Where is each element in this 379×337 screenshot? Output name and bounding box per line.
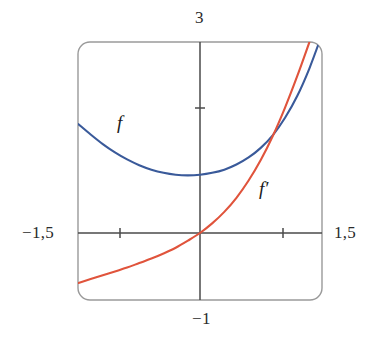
plot-canvas [0, 0, 379, 337]
curve-label-f: f [117, 113, 122, 132]
axis-label-top: 3 [195, 9, 379, 26]
function-graph-figure: 3 −1 −1,5 1,5 f f′ [0, 0, 379, 337]
axis-label-left: −1,5 [22, 224, 54, 241]
axis-label-bottom: −1 [192, 310, 211, 327]
curve-label-f-prime: f′ [259, 179, 268, 198]
axis-label-right: 1,5 [334, 224, 356, 241]
